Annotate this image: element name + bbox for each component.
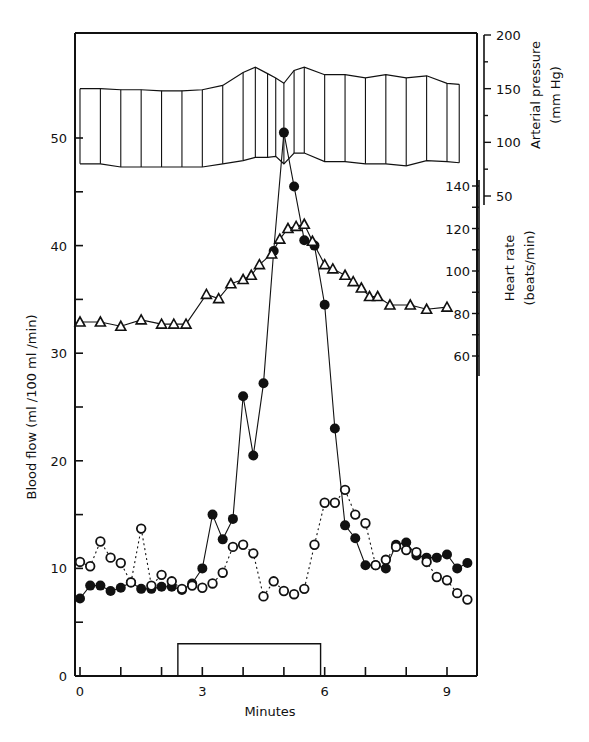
open-circle-marker [402,546,411,555]
systolic-line [80,67,459,91]
stimulus-bar [178,644,321,676]
y-tick-label: 50 [50,131,67,146]
filled-circle-marker [452,563,462,573]
open-triangle-marker [320,260,330,269]
open-triangle-marker [340,270,350,279]
open-circle-marker [157,571,166,580]
filled-circle-marker [106,586,116,596]
open-circle-marker [463,595,472,604]
filled-circle-marker [462,558,472,568]
open-triangle-marker [201,289,211,298]
open-circle-marker [422,558,431,567]
arterial-pressure-title: Arterial pressure [528,41,543,149]
open-triangle-marker [136,315,146,324]
filled-circle-marker [238,391,248,401]
open-circle-marker [310,540,319,549]
filled-circle-marker [85,581,95,591]
x-tick-label: 9 [443,684,451,699]
open-circle-marker [361,519,370,528]
open-circle-marker [453,589,462,598]
x-tick-label: 3 [198,684,206,699]
open-circle-marker [351,510,360,519]
ap-tick-label: 50 [496,189,513,204]
filled-circle-marker [360,560,370,570]
heart-rate-title: Heart rate [502,235,517,302]
open-triangle-marker [226,279,236,288]
open-circle-marker [290,590,299,599]
filled-circle-marker [289,181,299,191]
y-tick-label: 20 [50,454,67,469]
filled-circle-marker [279,128,289,138]
open-circle-marker [96,537,105,546]
stimulus-period-box [178,644,321,676]
open-circle-marker [147,581,156,590]
filled-circle-marker [259,378,269,388]
open-circle-marker [137,524,146,533]
filled-circle-marker [75,594,85,604]
open-circle-marker [127,578,136,587]
filled-circle-marker [157,582,167,592]
open-circle-marker [392,543,401,552]
open-circle-marker [116,559,125,568]
series-open-circle [76,486,472,604]
hr-tick-label: 60 [453,349,470,364]
open-circle-marker [269,577,278,586]
series-layer [75,128,472,604]
open-circle-marker [86,562,95,571]
open-triangle-marker [246,270,256,279]
open-triangle-line [80,224,447,326]
open-circle-marker [178,585,187,594]
hr-tick-label: 140 [445,179,470,194]
filled-circle-marker [136,584,146,594]
filled-circle-marker [350,533,360,543]
open-circle-marker [433,573,442,582]
filled-circle-marker [330,424,340,434]
y-tick-label: 30 [50,346,67,361]
y-tick-label: 0 [59,669,67,684]
open-circle-marker [167,577,176,586]
filled-circle-marker [197,563,207,573]
blood-flow-chart: 010203040500369501001502006080100120140 … [0,0,589,742]
hr-tick-label: 80 [453,307,470,322]
open-circle-marker [259,592,268,601]
filled-circle-marker [432,553,442,563]
arterial-pressure-envelope [80,67,459,167]
filled-circle-marker [95,581,105,591]
filled-circle-marker [228,514,238,524]
heart-rate-units: (beats/min) [522,230,537,305]
open-circle-marker [331,498,340,507]
filled-circle-marker [248,450,258,460]
filled-circle-marker [116,583,126,593]
filled-circle-marker [320,300,330,310]
open-circle-marker [412,548,421,557]
open-circle-marker [443,576,452,585]
ap-tick-label: 200 [496,28,521,43]
open-circle-marker [239,540,248,549]
open-circle-marker [229,543,238,552]
ap-tick-label: 150 [496,82,521,97]
open-circle-marker [249,549,258,558]
open-circle-marker [208,579,217,588]
arterial-pressure-units: (mm Hg) [548,66,563,124]
filled-circle-marker [340,520,350,530]
x-tick-label: 0 [76,684,84,699]
open-circle-marker [320,498,329,507]
open-circle-marker [218,568,227,577]
hr-tick-label: 100 [445,264,470,279]
y-axis-title: Blood flow (ml /100 ml /min) [24,315,39,500]
open-circle-marker [341,486,350,495]
open-circle-marker [280,587,289,596]
open-circle-marker [382,555,391,564]
y-tick-label: 10 [50,561,67,576]
ap-tick-label: 100 [496,135,521,150]
open-circle-marker [76,558,85,567]
x-tick-label: 6 [321,684,329,699]
filled-circle-marker [218,534,228,544]
hr-tick-label: 120 [445,222,470,237]
y-tick-label: 40 [50,239,67,254]
filled-circle-marker [442,549,452,559]
series-open-triangle [75,219,452,330]
open-circle-marker [188,581,197,590]
filled-circle-marker [208,510,218,520]
open-circle-marker [198,583,207,592]
